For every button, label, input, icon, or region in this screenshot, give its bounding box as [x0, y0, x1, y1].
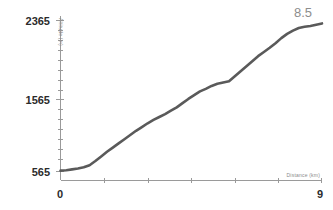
y-tick-label-mid: 1565 [26, 94, 50, 106]
peak-annotation-label: 8.5 [294, 5, 312, 20]
y-tick-label-top: 2365 [26, 15, 50, 27]
y-tick-label-bottom: 565 [32, 166, 50, 178]
elevation-profile-chart: 2365 1565 565 0 9 Altitude (m) Distance … [0, 0, 333, 210]
y-axis-title: Altitude (m) [58, 18, 64, 46]
x-axis-title: Distance (km) [287, 172, 321, 178]
chart-canvas: 2365 1565 565 0 9 Altitude (m) Distance … [0, 0, 333, 210]
x-tick-label-end: 9 [317, 188, 323, 200]
x-tick-label-start: 0 [57, 188, 63, 200]
